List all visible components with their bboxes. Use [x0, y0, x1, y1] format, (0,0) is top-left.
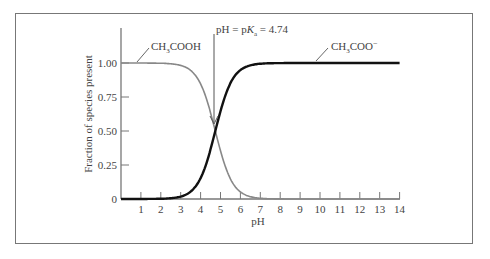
- x-tick-label: 1: [138, 203, 144, 215]
- ch3cooh-label: CH3COOH: [151, 40, 201, 55]
- x-tick-label: 6: [238, 203, 244, 215]
- ch3coo-leader: [316, 48, 328, 61]
- x-tick-label: 10: [315, 203, 327, 215]
- ch3coo-label: CH3COO−: [331, 39, 378, 55]
- x-tick-label: 8: [277, 203, 283, 215]
- x-tick-label: 4: [198, 203, 204, 215]
- y-tick-label: 0.25: [98, 159, 118, 171]
- x-tick-label: 9: [297, 203, 303, 215]
- x-tick-label: 2: [158, 203, 164, 215]
- y-tick-label: 0.50: [98, 125, 118, 137]
- y-axis-label: Fraction of species present: [82, 55, 94, 173]
- y-ticks: 00.250.500.751.00: [98, 57, 129, 205]
- y-tick-label: 0.75: [98, 91, 118, 103]
- pka-annotation: pH = pKa = 4.74: [216, 23, 289, 38]
- x-tick-label: 5: [218, 203, 224, 215]
- x-tick-label: 12: [354, 203, 365, 215]
- y-tick-label: 1.00: [98, 57, 118, 69]
- series-ch3cooh-curve: [121, 63, 400, 199]
- x-tick-label: 13: [374, 203, 386, 215]
- ch3cooh-leader: [137, 48, 149, 62]
- chart: 00.250.500.751.00 1234567891011121314 Fr…: [0, 0, 490, 259]
- x-tick-label: 14: [394, 203, 406, 215]
- x-axis-label: pH: [251, 215, 265, 227]
- y-tick-label: 0: [112, 193, 118, 205]
- x-tick-label: 3: [178, 203, 184, 215]
- x-tick-label: 7: [258, 203, 264, 215]
- series-ch3coo-curve: [121, 63, 400, 199]
- x-ticks: 1234567891011121314: [138, 192, 405, 215]
- x-tick-label: 11: [335, 203, 346, 215]
